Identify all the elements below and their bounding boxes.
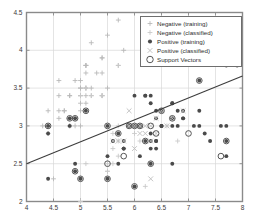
data-point: [46, 132, 50, 136]
data-point: [79, 177, 83, 181]
data-point: [224, 124, 228, 128]
data-point: [106, 154, 110, 158]
data-point: [132, 131, 137, 136]
data-point: [78, 93, 83, 98]
data-point: [121, 153, 127, 159]
legend-label: Support Vectors: [157, 55, 201, 64]
legend-item-2[interactable]: Positive (training): [143, 37, 238, 46]
data-point: [67, 93, 72, 98]
data-point: [149, 147, 153, 151]
legend-marker-circle-outline-icon: [143, 55, 157, 64]
data-point: [46, 177, 50, 181]
x-tick-label: 8: [241, 205, 245, 212]
data-point: [224, 154, 228, 158]
x-tick-label: 7: [187, 205, 191, 212]
data-point: [148, 30, 153, 35]
figure-container: 44.555.566.577.58 22.533.544.5 Negative …: [0, 0, 254, 224]
data-point: [89, 86, 94, 91]
data-point: [149, 101, 153, 105]
data-point: [111, 146, 116, 151]
data-point: [122, 147, 126, 151]
data-point: [154, 147, 158, 151]
legend-marker-plus-icon: [143, 28, 157, 37]
data-point: [57, 78, 62, 83]
data-point: [73, 169, 77, 173]
data-point: [100, 93, 105, 98]
data-point: [154, 139, 158, 143]
legend-item-1[interactable]: Negative (classified): [143, 28, 238, 37]
y-tick-label: 3.5: [0, 85, 23, 92]
data-point: [121, 48, 126, 53]
chart-legend[interactable]: Negative (training)Negative (classified)…: [140, 16, 242, 67]
data-point: [68, 116, 72, 120]
data-point: [73, 116, 77, 120]
data-point: [84, 93, 89, 98]
data-point: [192, 124, 196, 128]
data-point: [175, 139, 180, 144]
x-tick-label: 5: [79, 205, 83, 212]
data-point: [105, 86, 110, 91]
data-point: [89, 40, 94, 45]
data-point: [84, 63, 89, 68]
data-point: [197, 124, 201, 128]
data-point: [149, 162, 153, 166]
y-tick-label: 2: [0, 198, 23, 205]
data-point: [84, 101, 89, 106]
data-point: [116, 132, 120, 136]
data-point: [73, 124, 78, 129]
data-point: [116, 162, 120, 166]
data-point: [143, 184, 148, 189]
data-point: [111, 131, 116, 136]
data-point: [116, 154, 121, 159]
data-point: [84, 161, 89, 166]
data-point: [78, 86, 83, 91]
legend-label: Negative (training): [157, 19, 208, 28]
data-point: [105, 169, 110, 174]
data-point: [148, 39, 152, 43]
x-tick-label: 7.5: [211, 205, 220, 212]
data-point: [138, 131, 143, 136]
y-tick-label: 4: [0, 47, 23, 54]
legend-item-0[interactable]: Negative (training): [143, 19, 238, 28]
legend-item-4[interactable]: Support Vectors: [143, 55, 238, 64]
legend-label: Negative (classified): [157, 28, 213, 37]
data-point: [84, 71, 89, 76]
data-point: [116, 63, 121, 68]
x-tick-label: 6.5: [157, 205, 166, 212]
series-negative-classified: [67, 63, 180, 204]
data-point: [176, 124, 180, 128]
data-point: [51, 176, 56, 181]
data-point: [133, 184, 137, 188]
data-point: [94, 71, 99, 76]
legend-item-3[interactable]: Positive (classified): [143, 46, 238, 55]
data-point: [40, 124, 45, 129]
data-point: [84, 86, 89, 91]
data-point: [78, 108, 83, 113]
data-point: [68, 124, 72, 128]
legend-marker-filled-circle-icon: [143, 37, 157, 46]
data-point: [57, 108, 62, 113]
x-tick-label: 6: [133, 205, 137, 212]
data-point: [147, 56, 153, 62]
x-tick-label: 5.5: [103, 205, 112, 212]
data-point: [133, 94, 137, 98]
data-point: [149, 132, 153, 136]
data-point: [46, 124, 50, 128]
y-tick-label: 3: [0, 123, 23, 130]
data-point: [170, 162, 174, 166]
data-point: [57, 116, 62, 121]
data-point: [219, 124, 223, 128]
data-point: [100, 71, 105, 76]
data-point: [218, 153, 224, 159]
data-point: [105, 33, 110, 38]
data-point: [138, 154, 142, 158]
series-positive-classified: [111, 108, 186, 181]
data-point: [149, 94, 153, 98]
data-point: [89, 93, 94, 98]
legend-label: Positive (training): [157, 37, 205, 46]
data-point: [143, 139, 147, 143]
y-tick-label: 2.5: [0, 160, 23, 167]
series-support-vectors: [45, 78, 229, 190]
data-point: [100, 55, 105, 60]
legend-label: Positive (classified): [157, 46, 210, 55]
